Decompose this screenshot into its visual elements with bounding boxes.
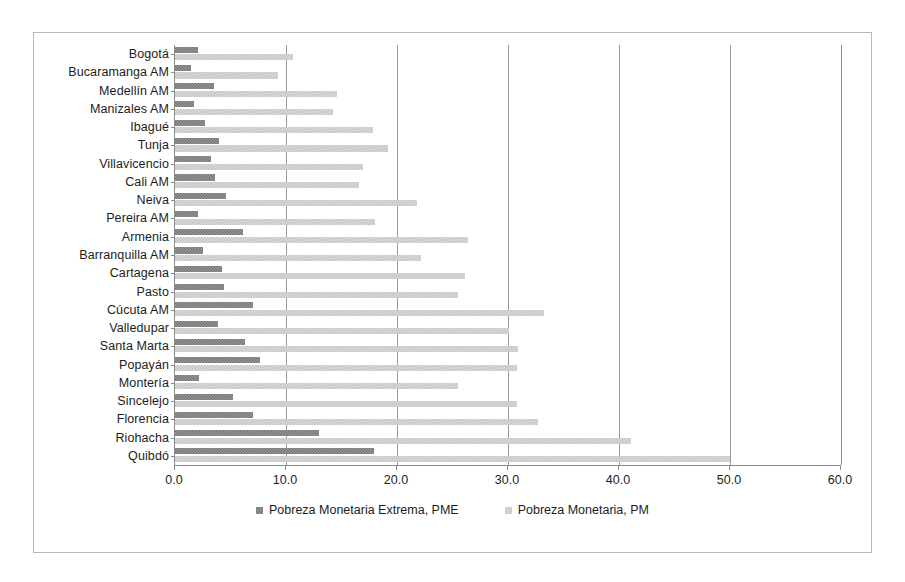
chart-legend: Pobreza Monetaria Extrema, PME Pobreza M…: [34, 503, 871, 517]
chart-row: Medellín AM: [175, 82, 841, 100]
category-label: Villavicencio: [99, 157, 169, 171]
category-label: Cúcuta AM: [107, 303, 169, 317]
gridline: [841, 45, 842, 465]
bar-pme: [175, 101, 194, 107]
bar-pm: [175, 219, 375, 225]
x-axis-tick-label: 20.0: [384, 473, 408, 487]
bar-pme: [175, 321, 218, 327]
bar-pm: [175, 273, 465, 279]
x-axis-tick-label: 10.0: [273, 473, 297, 487]
chart-row: Valledupar: [175, 319, 841, 337]
bar-pm: [175, 438, 631, 444]
category-label: Riohacha: [115, 431, 169, 445]
x-axis-tick: [285, 465, 286, 470]
chart-row: Villavicencio: [175, 155, 841, 173]
bar-pme: [175, 302, 253, 308]
legend-swatch-pm-icon: [505, 507, 512, 514]
category-label: Popayán: [119, 358, 169, 372]
chart-row: Neiva: [175, 191, 841, 209]
bar-pme: [175, 174, 215, 180]
chart-row: Riohacha: [175, 428, 841, 446]
category-label: Cali AM: [125, 175, 169, 189]
bar-pm: [175, 182, 359, 188]
category-label: Armenia: [122, 230, 169, 244]
bar-pm: [175, 237, 468, 243]
category-label: Bogotá: [129, 47, 169, 61]
chart-row: Manizales AM: [175, 100, 841, 118]
category-label: Florencia: [117, 412, 169, 426]
category-label: Pereira AM: [106, 211, 169, 225]
x-axis-tick: [729, 465, 730, 470]
category-label: Tunja: [138, 138, 169, 152]
bar-pm: [175, 145, 388, 151]
x-axis-tick-label: 50.0: [717, 473, 741, 487]
bar-pme: [175, 339, 245, 345]
bar-pm: [175, 383, 458, 389]
category-label: Ibagué: [130, 120, 169, 134]
chart-row: Sincelejo: [175, 392, 841, 410]
bar-pm: [175, 72, 278, 78]
bar-pme: [175, 448, 374, 454]
bar-pme: [175, 138, 219, 144]
bar-pme: [175, 266, 222, 272]
bar-pme: [175, 120, 205, 126]
bar-pm: [175, 401, 517, 407]
category-label: Medellín AM: [99, 84, 169, 98]
category-label: Pasto: [137, 285, 169, 299]
chart-row: Pasto: [175, 282, 841, 300]
x-axis-tick-label: 40.0: [606, 473, 630, 487]
x-axis-tick: [840, 465, 841, 470]
chart-row: Bogotá: [175, 45, 841, 63]
category-label: Sincelejo: [117, 394, 169, 408]
x-axis-tick: [507, 465, 508, 470]
category-label: Cartagena: [110, 266, 169, 280]
category-label: Barranquilla AM: [79, 248, 169, 262]
bar-pme: [175, 430, 319, 436]
bar-pm: [175, 200, 417, 206]
chart-row: Pereira AM: [175, 209, 841, 227]
chart-row: Cartagena: [175, 264, 841, 282]
bar-pm: [175, 365, 517, 371]
bar-pme: [175, 193, 226, 199]
bar-pm: [175, 419, 538, 425]
legend-item-pme: Pobreza Monetaria Extrema, PME: [256, 503, 459, 517]
chart-row: Santa Marta: [175, 337, 841, 355]
bar-pm: [175, 164, 363, 170]
chart-row: Tunja: [175, 136, 841, 154]
chart-row: Florencia: [175, 410, 841, 428]
category-label: Manizales AM: [90, 102, 169, 116]
bar-pm: [175, 127, 373, 133]
x-axis-tick: [174, 465, 175, 470]
category-label: Montería: [119, 376, 169, 390]
x-axis-tick-label: 30.0: [495, 473, 519, 487]
chart-row: Bucaramanga AM: [175, 63, 841, 81]
bar-pme: [175, 65, 191, 71]
bar-pme: [175, 247, 203, 253]
legend-item-pm: Pobreza Monetaria, PM: [505, 503, 649, 517]
bar-pme: [175, 412, 253, 418]
bar-pm: [175, 292, 458, 298]
category-label: Quibdó: [128, 449, 169, 463]
bar-pm: [175, 91, 337, 97]
legend-swatch-pme-icon: [256, 507, 263, 514]
bar-pm: [175, 255, 421, 261]
chart-row: Cúcuta AM: [175, 301, 841, 319]
bar-pm: [175, 310, 544, 316]
chart-row: Popayán: [175, 355, 841, 373]
x-axis-tick-label: 0.0: [165, 473, 182, 487]
bar-pme: [175, 211, 198, 217]
bar-pm: [175, 54, 293, 60]
bar-pme: [175, 357, 260, 363]
chart-row: Quibdó: [175, 447, 841, 465]
bar-pm: [175, 346, 518, 352]
chart-row: Barranquilla AM: [175, 246, 841, 264]
category-label: Valledupar: [109, 321, 169, 335]
bar-pm: [175, 328, 509, 334]
legend-label-pm: Pobreza Monetaria, PM: [518, 503, 649, 517]
category-label: Neiva: [137, 193, 169, 207]
x-axis: 0.010.020.030.040.050.060.0: [174, 465, 841, 466]
bar-pme: [175, 284, 224, 290]
chart-row: Armenia: [175, 228, 841, 246]
chart-row: Montería: [175, 374, 841, 392]
bar-pme: [175, 375, 199, 381]
